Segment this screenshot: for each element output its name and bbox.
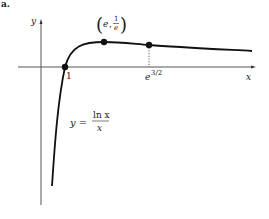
y-axis-label: y (30, 16, 37, 26)
svg-text:(: ( (96, 14, 103, 35)
maximum-label: ( e , 1 e ) (96, 14, 127, 35)
function-label: y = ln x x (69, 110, 110, 133)
svg-text:y =: y = (69, 117, 87, 128)
svg-text:ln x: ln x (93, 110, 110, 120)
root-label: 1 (66, 71, 72, 81)
maximum-point (101, 39, 107, 45)
x-axis-arrow-icon (251, 66, 256, 69)
function-curve (52, 42, 252, 186)
problem-label: a. (1, 0, 10, 9)
y-axis-arrow-icon (40, 19, 43, 24)
graph-canvas: a. y x 1 ( e , 1 e ) e 3/2 y = ln x x (0, 0, 269, 219)
svg-text:1: 1 (114, 15, 118, 23)
svg-text:e: e (114, 24, 118, 32)
root-point (62, 64, 68, 70)
inflection-point (146, 42, 152, 48)
y-axis (40, 19, 43, 205)
inflection-label: e 3/2 (145, 69, 162, 82)
svg-text:e: e (103, 19, 108, 29)
svg-text:e: e (145, 72, 150, 82)
svg-text:3/2: 3/2 (151, 69, 162, 77)
x-axis-label: x (246, 72, 251, 82)
x-axis (18, 66, 256, 69)
svg-text:,: , (109, 19, 112, 29)
svg-text:): ) (120, 14, 127, 35)
svg-text:x: x (97, 123, 102, 133)
